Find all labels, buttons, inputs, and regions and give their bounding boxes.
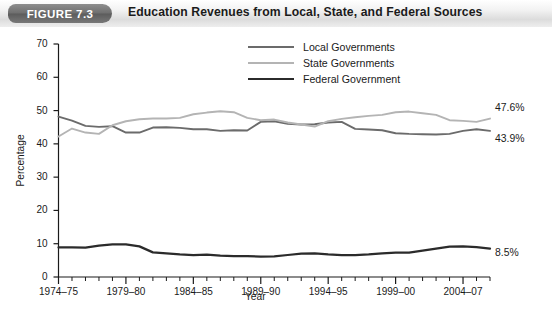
x-tick-label: 2004–07	[431, 286, 495, 297]
y-tick-label: 70	[26, 38, 48, 49]
legend-color-swatch	[248, 46, 294, 48]
data-series-lines	[59, 111, 491, 256]
series-end-value-label: 43.9%	[495, 133, 524, 144]
y-tick-label: 30	[26, 171, 48, 182]
legend-label: Federal Government	[303, 73, 400, 85]
x-tick-label: 1984–85	[161, 286, 225, 297]
y-tick-label: 40	[26, 138, 48, 149]
y-tick-label: 50	[26, 105, 48, 116]
x-tick-label: 1994–95	[296, 286, 360, 297]
x-tick-label: 1999–00	[364, 286, 428, 297]
figure-title: Education Revenues from Local, State, an…	[128, 5, 483, 19]
chart-area: 010203040506070 1974–751979–801984–85198…	[0, 27, 552, 317]
legend-item[interactable]: Federal Government	[248, 71, 448, 87]
figure-number-tag: FIGURE 7.3	[8, 4, 112, 23]
series-end-value-label: 47.6%	[495, 102, 524, 113]
y-tick-label: 0	[26, 271, 48, 282]
x-axis-ticks	[59, 277, 491, 284]
figure-header-banner: FIGURE 7.3 Education Revenues from Local…	[0, 0, 552, 28]
legend-item[interactable]: State Governments	[248, 55, 448, 71]
series-end-value-label: 8.5%	[495, 247, 519, 258]
y-axis-ticks	[54, 44, 59, 277]
x-axis-title: Year	[245, 291, 266, 302]
legend-color-swatch	[248, 62, 294, 64]
figure-container: FIGURE 7.3 Education Revenues from Local…	[0, 0, 552, 317]
x-tick-label: 1979–80	[94, 286, 158, 297]
chart-legend: Local GovernmentsState GovernmentsFedera…	[248, 39, 448, 87]
y-tick-label: 10	[26, 238, 48, 249]
y-axis-title: Percentage	[15, 121, 26, 201]
legend-label: Local Governments	[303, 41, 395, 53]
x-tick-label: 1974–75	[27, 286, 91, 297]
legend-color-swatch	[248, 78, 294, 80]
legend-item[interactable]: Local Governments	[248, 39, 448, 55]
y-tick-label: 60	[26, 71, 48, 82]
y-tick-label: 20	[26, 204, 48, 215]
legend-label: State Governments	[303, 57, 394, 69]
